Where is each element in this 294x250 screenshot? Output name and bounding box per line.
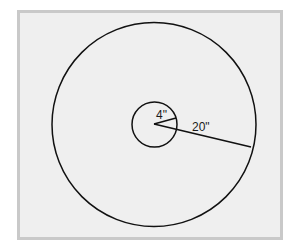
inner-radius-label: 4" xyxy=(156,108,167,122)
circles-diagram: 4" 20" xyxy=(0,0,294,250)
outer-radius-label: 20" xyxy=(192,120,210,134)
